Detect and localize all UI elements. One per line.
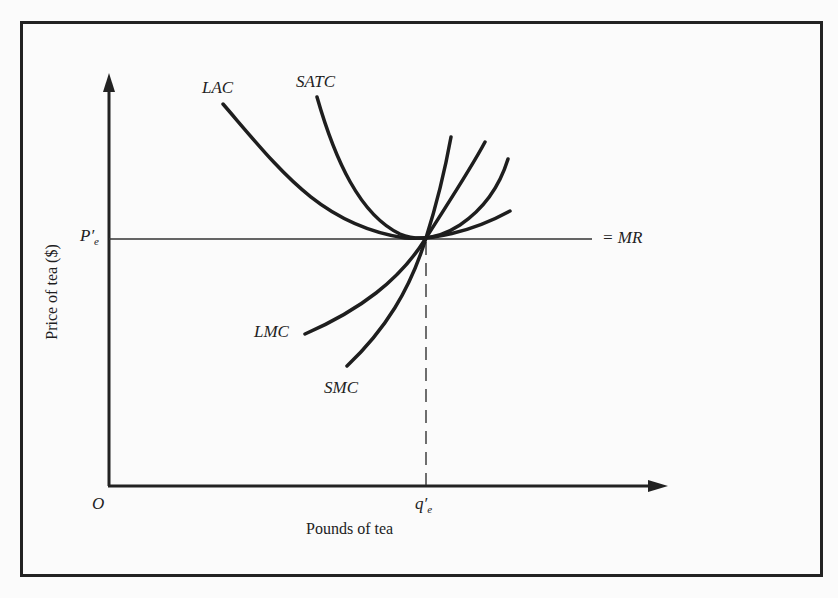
quantity-tick-label: q′e xyxy=(415,494,432,515)
price-tick-main: P′ xyxy=(80,226,94,245)
quantity-tick-sub: e xyxy=(427,503,432,515)
x-axis-label: Pounds of tea xyxy=(306,520,393,538)
price-tick-sub: e xyxy=(94,235,99,247)
price-tick-label: P′e xyxy=(80,226,99,247)
lac-label: LAC xyxy=(202,78,233,98)
quantity-tick-main: q′ xyxy=(415,494,427,513)
y-axis-label: Price of tea ($) xyxy=(43,244,61,340)
lmc-label: LMC xyxy=(254,322,289,342)
satc-label: SATC xyxy=(296,72,335,92)
smc-curve xyxy=(347,137,451,366)
smc-label: SMC xyxy=(324,378,358,398)
x-axis-arrow-icon xyxy=(648,480,668,492)
satc-curve xyxy=(317,97,508,238)
y-axis-arrow-icon xyxy=(103,73,115,92)
mr-label: = MR xyxy=(602,228,642,248)
origin-label: O xyxy=(92,494,104,514)
